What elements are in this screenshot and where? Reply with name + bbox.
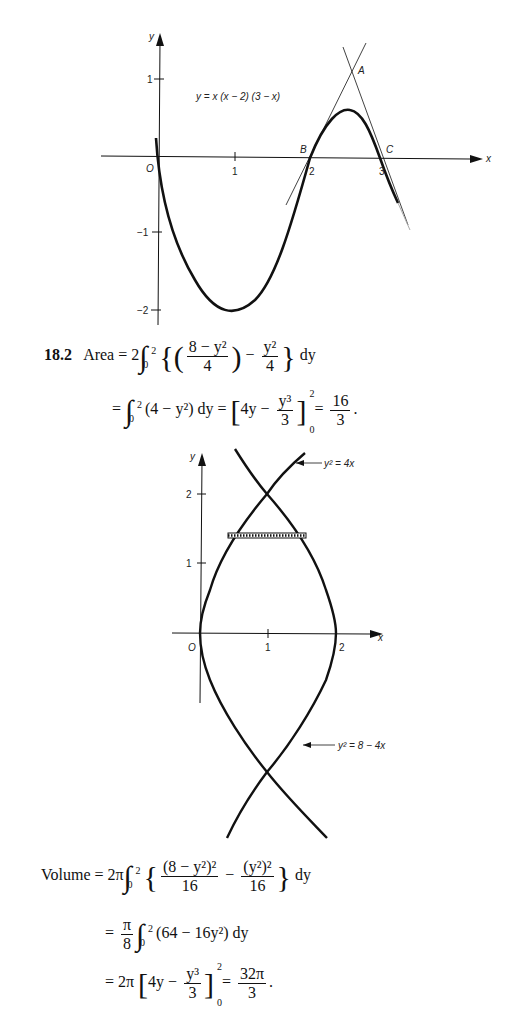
cubic-graph: y x O 1 2 3 1 −1 −2 A B C y = x (x − 2) … [0, 0, 509, 330]
y-axis-label: y [148, 31, 155, 42]
tangent-at-C [343, 47, 408, 225]
area-line-1: 18.2 Area = 2∫20 {(8 − y²4) − y²4} dy [44, 338, 316, 375]
y-tick-1: 1 [186, 558, 192, 569]
origin-label: O [188, 642, 196, 653]
origin-label: O [146, 163, 154, 174]
parabola-y2-8-4x [227, 449, 336, 838]
y-axis [200, 460, 202, 703]
y-axis-arrow-icon [156, 33, 164, 46]
integral-sign: ∫20 [139, 342, 155, 372]
y-tick-neg2: −2 [137, 305, 149, 316]
cubic-curve [156, 110, 398, 311]
y-axis-label: y [189, 451, 196, 462]
x-axis-label: x [485, 153, 492, 164]
integral-sign: ∫20 [125, 396, 141, 426]
point-A-label: A [357, 65, 365, 76]
x-tick-1: 1 [265, 642, 271, 653]
parabolas-graph: y x O 1 2 2 1 y² = 4x y² = 8 − 4x [0, 440, 509, 840]
volume-line-3: = 2π [4y − y³3]20 = 32π3. [105, 965, 273, 1002]
point-B-label: B [300, 144, 307, 155]
point-C-label: C [386, 144, 394, 155]
y-tick-1: 1 [147, 74, 153, 85]
integral-sign: ∫20 [136, 920, 152, 950]
tangent-at-B [286, 43, 366, 205]
curve-equation: y = x (x − 2) (3 − x) [195, 91, 280, 102]
parabola-y2-4x [200, 453, 327, 838]
y-axis-arrow-icon [198, 453, 206, 466]
x-axis-arrow-icon [470, 155, 483, 163]
parabola-label-2: y² = 8 − 4x [337, 740, 386, 751]
y-tick-neg1: −1 [137, 227, 149, 238]
x-tick-1: 1 [232, 166, 238, 177]
x-tick-3: 3 [379, 166, 385, 177]
fraction: y²4 [262, 338, 279, 375]
y-tick-2: 2 [186, 489, 192, 500]
volume-line-2: = π8∫20 (64 − 16y²) dy [105, 916, 249, 953]
problem-number: 18.2 [44, 346, 72, 363]
arrow-icon [303, 742, 311, 748]
x-tick-2: 2 [339, 642, 345, 653]
volume-label: Volume [41, 866, 90, 883]
x-tick-2: 2 [309, 166, 315, 177]
integral-sign: ∫20 [124, 862, 140, 892]
x-axis-label: x [377, 632, 384, 643]
volume-line-1: Volume = 2π∫20 {(8 − y²)²16 − (y²)²16} d… [41, 858, 311, 895]
area-label: Area [83, 346, 114, 363]
parabola-label-1: y² = 4x [323, 458, 355, 469]
fraction: 8 − y²4 [187, 338, 229, 375]
area-line-2: = ∫20 (4 − y²) dy = [4y − y³3]20 = 163. [112, 392, 357, 429]
x-axis [172, 633, 370, 634]
